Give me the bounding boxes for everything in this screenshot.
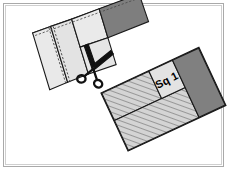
scissors-handle-left [77, 75, 86, 83]
scissors-handle-right [93, 78, 104, 89]
illustration-canvas: Sq 1 [0, 0, 229, 172]
finished-block: Sq 1 [101, 47, 226, 151]
illustration-artwork: Sq 1 [0, 0, 229, 172]
